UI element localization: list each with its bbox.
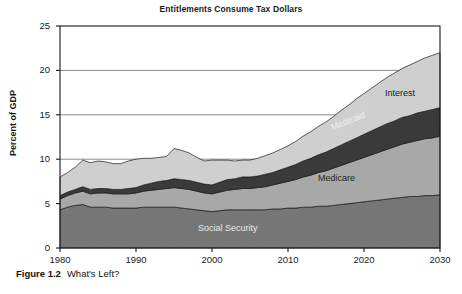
series-label-medicare: Medicare — [318, 173, 355, 183]
figure-caption: Figure 1.2What's Left? — [16, 268, 119, 279]
chart-title: Entitlements Consume Tax Dollars — [0, 4, 462, 14]
y-tick-label-10: 10 — [26, 153, 50, 164]
x-tick-label-2020: 2020 — [342, 254, 386, 265]
x-tick-label-1990: 1990 — [114, 254, 158, 265]
y-tick-label-20: 20 — [26, 64, 50, 75]
figure-number: Figure 1.2 — [16, 268, 61, 279]
y-tick-label-5: 5 — [26, 198, 50, 209]
x-tick-label-2010: 2010 — [266, 254, 310, 265]
stacked-area-plot — [0, 0, 462, 294]
x-tick-label-1980: 1980 — [38, 254, 82, 265]
series-label-interest: Interest — [385, 88, 415, 98]
y-tick-label-25: 25 — [26, 20, 50, 31]
series-label-social-security: Social Security — [198, 223, 258, 233]
y-axis-title: Percent of GDP — [8, 63, 18, 183]
x-tick-label-2000: 2000 — [190, 254, 234, 265]
y-tick-label-0: 0 — [26, 242, 50, 253]
y-tick-label-15: 15 — [26, 109, 50, 120]
figure-title: What's Left? — [67, 268, 120, 279]
figure-container: Entitlements Consume Tax Dollars Percent… — [0, 0, 462, 294]
x-tick-label-2030: 2030 — [418, 254, 462, 265]
